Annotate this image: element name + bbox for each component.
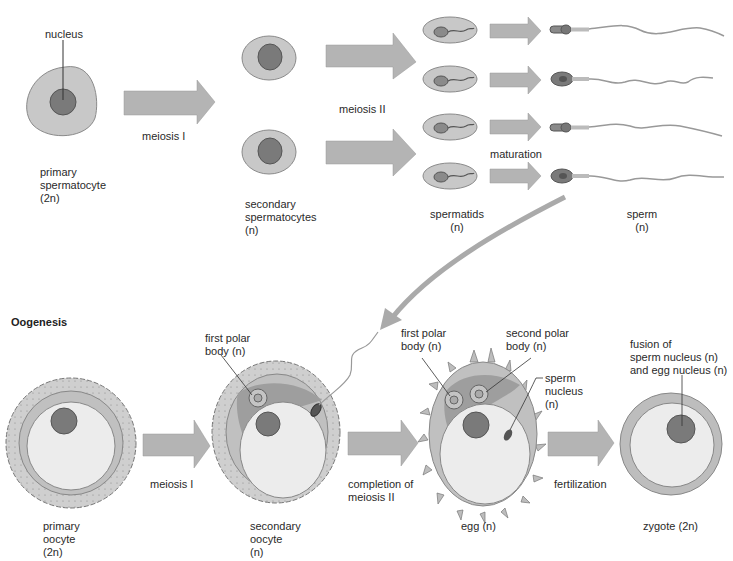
completion-arrow xyxy=(348,420,418,466)
sperm xyxy=(551,72,713,86)
primary-spermatocyte-label: primary spermatocyte (2n) xyxy=(40,166,106,205)
first-polar-body-egg-label: first polar body (n) xyxy=(401,327,446,353)
meiosis2-arrow xyxy=(326,129,416,176)
nucleus-label: nucleus xyxy=(45,28,83,41)
fertilization-label: fertilization xyxy=(554,478,607,491)
primary-oocyte xyxy=(6,378,136,508)
maturation-arrow xyxy=(490,66,541,94)
oogenesis-heading: Oogenesis xyxy=(11,316,67,328)
sperm-nucleus-label: sperm nucleus (n) xyxy=(545,372,583,411)
secondary-spermatocyte xyxy=(242,130,296,174)
sperm xyxy=(551,169,724,183)
meiosis2-label: meiosis II xyxy=(339,103,385,116)
sperm xyxy=(550,123,722,136)
egg-label: egg (n) xyxy=(461,520,496,533)
meiosis1-egg-label: meiosis I xyxy=(150,478,193,491)
secondary-spermatocyte xyxy=(242,36,296,80)
spermatid xyxy=(423,163,477,189)
primary-oocyte-label: primary oocyte (2n) xyxy=(43,520,80,559)
maturation-arrow xyxy=(490,113,541,141)
spermatid xyxy=(423,114,477,140)
zygote-label: zygote (2n) xyxy=(643,520,698,533)
sperm xyxy=(550,25,724,36)
meiosis1-arrow-egg xyxy=(143,420,210,468)
first-polar-body-label: first polar body (n) xyxy=(205,332,250,358)
sperm-label: sperm (n) xyxy=(622,208,662,234)
gametogenesis-diagram xyxy=(0,0,733,561)
egg xyxy=(418,348,546,523)
completion-label: completion of meiosis II xyxy=(348,478,413,504)
meiosis1-arrow-sperm xyxy=(124,80,215,124)
spermatid xyxy=(423,66,477,92)
primary-spermatocyte xyxy=(27,40,97,136)
fertilization-arrow xyxy=(548,420,614,466)
second-polar-body-label: second polar body (n) xyxy=(506,327,569,353)
zygote xyxy=(620,375,722,495)
maturation-arrow xyxy=(490,162,541,190)
spermatid xyxy=(423,17,477,43)
maturation-arrow xyxy=(490,17,541,45)
secondary-spermatocytes-label: secondary spermatocytes (n) xyxy=(245,198,317,237)
meiosis1-label: meiosis I xyxy=(142,130,185,143)
meiosis2-arrow xyxy=(326,33,416,79)
spermatids-label: spermatids (n) xyxy=(423,208,491,234)
secondary-oocyte-label: secondary oocyte (n) xyxy=(250,520,301,559)
maturation-label: maturation xyxy=(490,148,542,161)
fusion-label: fusion of sperm nucleus (n) and egg nucl… xyxy=(630,338,727,377)
